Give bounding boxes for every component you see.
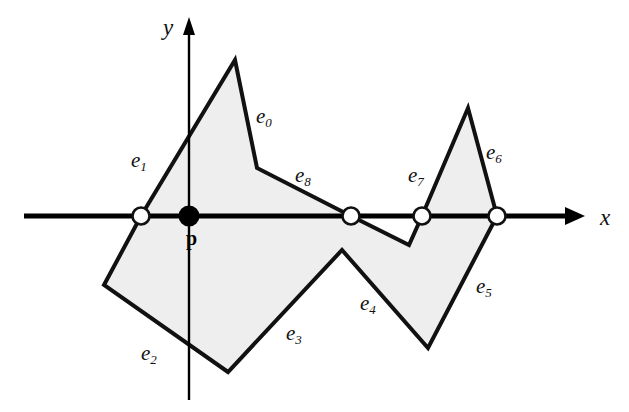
edge-label-base: e [256,104,265,128]
edge-label-subscript: 8 [304,174,311,189]
query-point-label: p [186,228,197,248]
edge-label-subscript: 1 [140,159,147,174]
edge-label-base: e [486,140,495,164]
edge-label-base: e [476,274,485,298]
edge-label-e2: e2 [141,343,157,366]
edge-label-base: e [295,163,304,187]
edge-label-e3: e3 [286,323,302,346]
edge-label-e5: e5 [476,276,492,299]
crossing-2-marker [343,208,360,225]
y-axis-label: y [163,16,173,39]
edge-label-subscript: 7 [417,174,424,189]
crossing-4-marker [489,208,506,225]
edge-label-base: e [408,163,417,187]
polygon-ray-crossing-diagram [0,0,629,412]
edge-label-subscript: 4 [369,302,376,317]
edge-label-base: e [131,148,140,172]
edge-label-e8: e8 [295,165,311,188]
crossing-3-marker [414,208,431,225]
edge-label-base: e [286,321,295,345]
edge-label-e4: e4 [360,293,376,316]
edge-label-e1: e1 [131,150,147,173]
edge-label-subscript: 3 [295,332,302,347]
edge-label-subscript: 0 [265,115,272,130]
query-point-marker [180,207,199,226]
edge-label-e0: e0 [256,106,272,129]
edge-label-base: e [141,341,150,365]
edge-label-e7: e7 [408,165,424,188]
edge-label-subscript: 5 [485,285,492,300]
x-axis-label: x [600,206,610,229]
crossing-1-marker [133,208,150,225]
edge-label-base: e [360,291,369,315]
edge-label-e6: e6 [486,142,502,165]
edge-label-subscript: 2 [150,352,157,367]
edge-label-subscript: 6 [495,151,502,166]
